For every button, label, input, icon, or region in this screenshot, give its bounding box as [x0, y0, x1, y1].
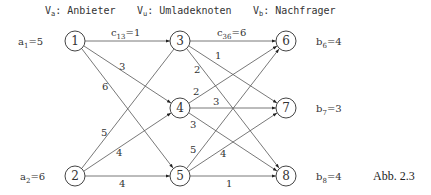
- supply-label-2: a2=6: [20, 171, 45, 185]
- edge-label-4-7: 3: [213, 96, 219, 107]
- svg-text:3: 3: [176, 34, 184, 48]
- transshipment-network-diagram: Va: Anbieter Vu: Umladeknoten Vb: Nachfr…: [0, 0, 431, 195]
- edge-label-5-6: 5: [190, 144, 196, 155]
- edge-label-4-6: 2: [193, 86, 199, 97]
- header-demand: Vb: Nachfrager: [253, 5, 336, 18]
- edge-label-3-7: 1: [215, 50, 221, 61]
- edge-2-4: [84, 113, 171, 171]
- svg-text:5: 5: [176, 169, 184, 183]
- edge-label-5-7: 4: [220, 148, 226, 159]
- edge-label-3-6: c36=6: [217, 27, 246, 41]
- node-6: 6: [276, 31, 296, 51]
- demand-label-7: b7=3: [316, 103, 342, 117]
- edge-label-1-3: c13=1: [111, 27, 140, 41]
- edge-label-1-5: 6: [102, 81, 108, 92]
- node-8: 8: [276, 166, 296, 186]
- svg-text:2: 2: [71, 169, 79, 183]
- svg-text:7: 7: [282, 101, 290, 115]
- edge-label-5-8: 1: [226, 178, 232, 189]
- header-supply: Va: Anbieter: [45, 5, 115, 18]
- edge-label-3-8: 2: [194, 64, 200, 75]
- edge-1-4: [84, 46, 171, 103]
- supply-label-1: a1=5: [18, 36, 43, 50]
- nodes: 1 2 3 4 5 6 7 8: [65, 31, 296, 186]
- node-3: 3: [170, 31, 190, 51]
- node-7: 7: [276, 98, 296, 118]
- svg-text:1: 1: [71, 34, 79, 48]
- header-transshipment: Vu: Umladeknoten: [137, 5, 232, 18]
- node-1: 1: [65, 31, 85, 51]
- svg-text:6: 6: [282, 34, 290, 48]
- demand-label-6: b6=4: [316, 36, 342, 50]
- demand-label-8: b8=4: [316, 171, 342, 185]
- edge-label-2-3: 5: [101, 127, 107, 138]
- edge-label-2-5: 4: [119, 178, 125, 189]
- edge-label-1-4: 3: [119, 61, 125, 72]
- svg-text:4: 4: [176, 101, 184, 115]
- node-2: 2: [65, 166, 85, 186]
- node-4: 4: [170, 98, 190, 118]
- node-5: 5: [170, 166, 190, 186]
- svg-text:8: 8: [282, 169, 290, 183]
- figure-caption: Abb. 2.3: [373, 169, 415, 183]
- edge-label-2-4: 4: [116, 147, 122, 158]
- edge-label-4-8: 3: [190, 119, 196, 130]
